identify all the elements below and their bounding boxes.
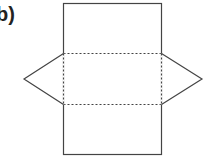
right-triangle-face — [162, 54, 203, 105]
left-triangle-face — [24, 54, 64, 105]
prism-net-diagram — [0, 0, 205, 159]
net-outer-rectangle — [64, 4, 162, 155]
